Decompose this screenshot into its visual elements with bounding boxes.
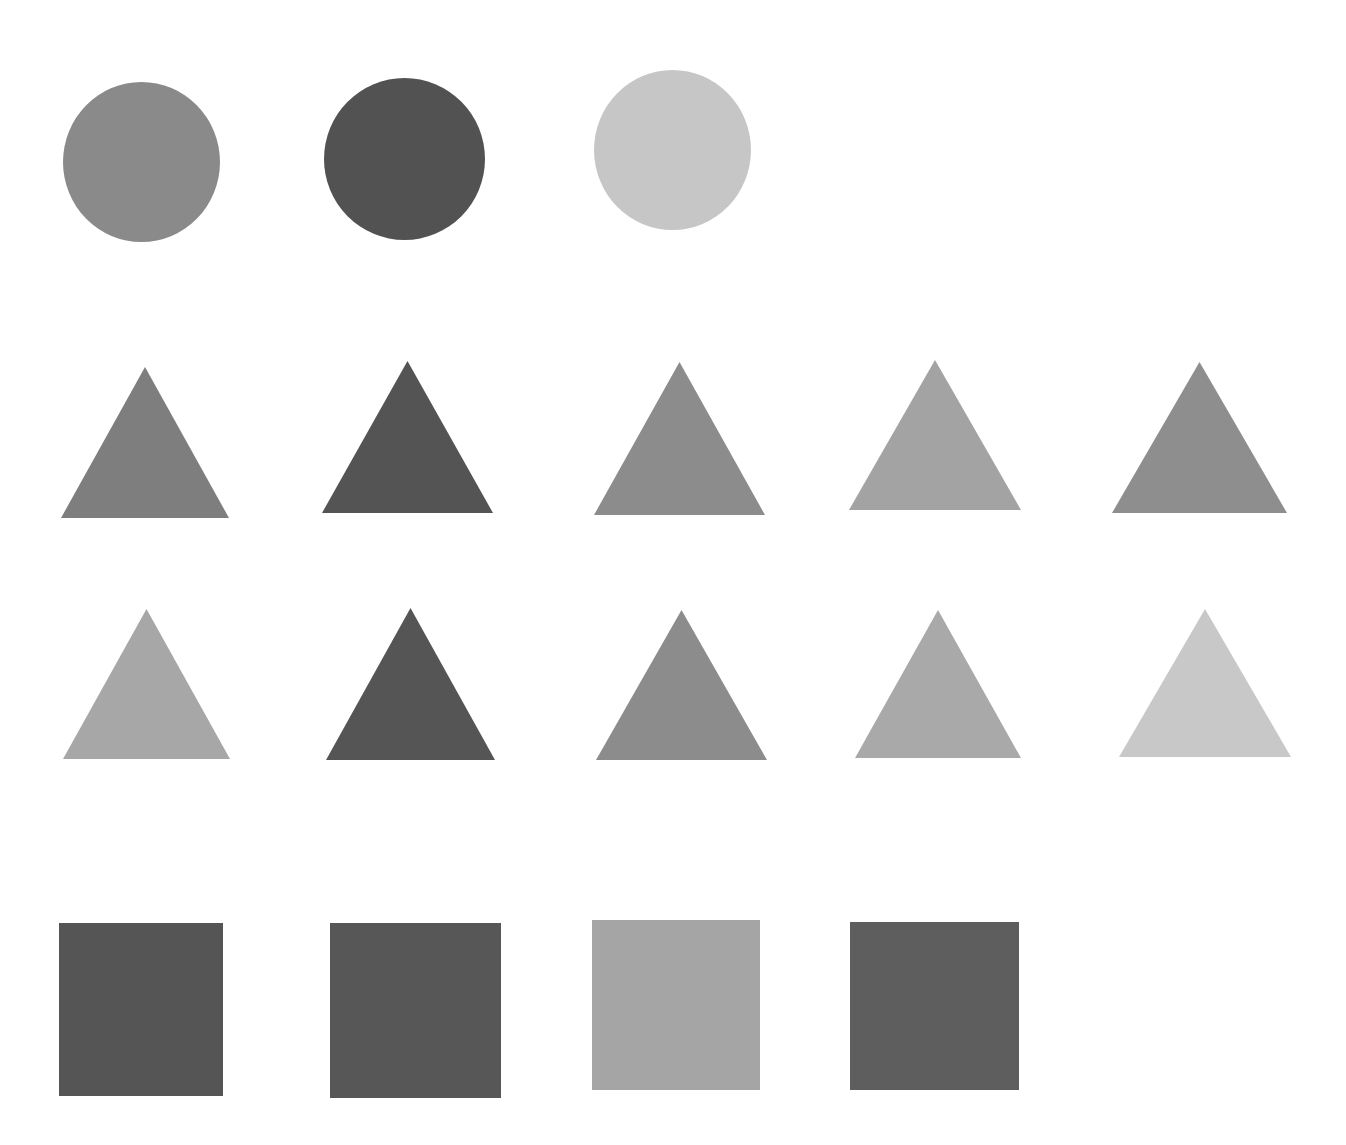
square-shape-3 <box>592 920 760 1090</box>
triangle-shape-3 <box>596 610 767 760</box>
triangle-shape-4 <box>849 360 1021 510</box>
square-shape-2 <box>330 923 501 1098</box>
triangle-shape-1 <box>63 609 230 759</box>
triangle-shape-2 <box>326 608 495 760</box>
triangle-shape-5 <box>1112 362 1287 513</box>
shapes-figure <box>0 0 1346 1145</box>
triangle-shape-2 <box>322 361 493 513</box>
square-shape-1 <box>59 923 223 1096</box>
square-shape-4 <box>850 922 1019 1090</box>
triangle-shape-4 <box>855 610 1021 758</box>
triangle-shape-3 <box>594 362 765 515</box>
circle-shape-3 <box>594 70 751 230</box>
triangle-shape-5 <box>1119 609 1291 757</box>
circle-shape-2 <box>324 78 485 240</box>
circle-shape-1 <box>63 82 220 242</box>
triangle-shape-1 <box>61 367 229 518</box>
